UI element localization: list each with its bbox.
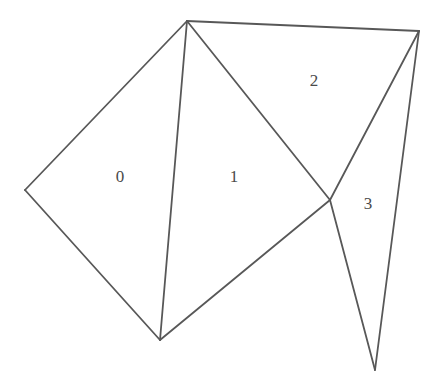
region-label-1: 1 <box>230 167 239 186</box>
polygon-mesh-figure: 0 1 2 3 <box>0 0 442 387</box>
region-label-2: 2 <box>310 71 319 90</box>
region-label-3: 3 <box>364 194 373 213</box>
figure-root: 0 1 2 3 <box>0 0 442 387</box>
region-label-0: 0 <box>116 167 125 186</box>
